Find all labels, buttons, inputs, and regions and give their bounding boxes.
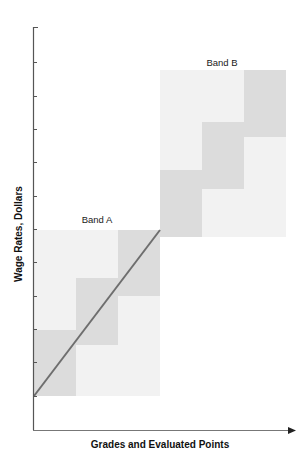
band-b-cell-2 [202,122,244,189]
x-axis-label: Grades and Evaluated Points [91,439,230,450]
band-b [160,70,286,237]
band-b-label: Band B [206,57,237,68]
band-b-cell-1 [160,170,202,237]
y-axis-label: Wage Rates, Dollars [13,186,24,282]
band-a-label: Band A [82,214,113,225]
x-axis [33,427,296,434]
arrow-right-icon [288,427,296,434]
band-b-cell-3 [244,70,286,137]
broadbanding-diagram: Band A Band B Grades and Evaluated Point… [0,0,306,461]
